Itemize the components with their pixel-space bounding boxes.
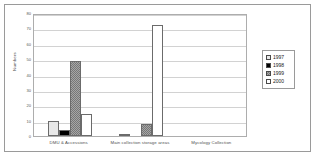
y-axis-tick-label: 80 [5, 12, 31, 17]
y-axis-tick-label: 40 [5, 74, 31, 79]
y-axis-tick-label: 10 [5, 120, 31, 125]
legend-swatch-icon [266, 71, 271, 76]
bar-1997 [119, 134, 130, 136]
legend-item-label: 2000 [273, 79, 284, 84]
y-axis-tick-label: 30 [5, 89, 31, 94]
legend-swatch-icon [266, 55, 271, 60]
bar-group [119, 15, 163, 136]
y-axis-tick-label: 20 [5, 104, 31, 109]
bar-1999 [70, 61, 81, 136]
bar-1998 [59, 130, 70, 136]
chart-legend: 1997199819992000 [262, 50, 295, 89]
chart-figure: Numbers 01020304050607080 DMU & Accessio… [0, 0, 316, 157]
y-axis-tick-label: 50 [5, 58, 31, 63]
bar-2000 [152, 25, 163, 136]
x-axis-tick-label: Main collection storage areas [104, 140, 175, 145]
bars-layer [34, 15, 246, 136]
legend-item-label: 1997 [273, 55, 284, 60]
bar-1997 [48, 121, 59, 136]
bar-2000 [81, 114, 92, 136]
legend-item-label: 1998 [273, 63, 284, 68]
bar-group [190, 15, 234, 136]
legend-item-1997[interactable]: 1997 [266, 54, 293, 62]
y-axis-tick-label: 70 [5, 27, 31, 32]
bar-1999 [141, 124, 152, 136]
legend-swatch-icon [266, 63, 271, 68]
x-axis-tick-label: Mycology Collection [176, 140, 247, 145]
legend-swatch-icon [266, 79, 271, 84]
legend-item-2000[interactable]: 2000 [266, 78, 293, 86]
y-axis-tick-label: 60 [5, 43, 31, 48]
legend-item-1999[interactable]: 1999 [266, 70, 293, 78]
legend-item-label: 1999 [273, 71, 284, 76]
bar-group [48, 15, 92, 136]
legend-item-1998[interactable]: 1998 [266, 62, 293, 70]
x-axis-tick-label: DMU & Accessions [33, 140, 104, 145]
y-axis-tick-label: 0 [5, 135, 31, 140]
plot-area [33, 14, 247, 137]
